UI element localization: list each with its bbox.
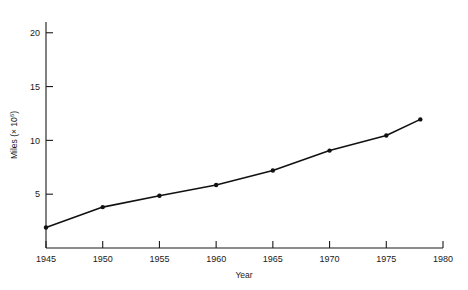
y-axis-title-base: Miles (× 10 [9, 117, 19, 159]
data-point [271, 168, 275, 172]
data-point [214, 183, 218, 187]
y-tick-label: 15 [30, 82, 40, 92]
y-tick-label: 10 [30, 136, 40, 146]
data-point [327, 148, 331, 152]
data-point [101, 205, 105, 209]
y-axis-title: Miles (× 106) [9, 111, 19, 159]
chart-canvas: 5101520 19451950195519601965197019751980… [0, 0, 468, 290]
x-tick-label: 1955 [149, 254, 169, 264]
data-point [157, 194, 161, 198]
x-tick-label: 1945 [36, 254, 56, 264]
x-tick-label: 1960 [206, 254, 226, 264]
data-point-markers [44, 117, 423, 230]
x-axis-title: Year [235, 270, 252, 280]
x-axis-ticks: 19451950195519601965197019751980 [36, 241, 453, 264]
y-tick-label: 20 [30, 28, 40, 38]
data-point [384, 133, 388, 137]
y-axis-title-close: ) [9, 111, 19, 114]
y-axis-ticks: 5101520 [30, 28, 53, 199]
data-point [418, 117, 422, 121]
x-tick-label: 1970 [320, 254, 340, 264]
line-chart: 5101520 19451950195519601965197019751980… [0, 0, 468, 290]
x-tick-label: 1950 [93, 254, 113, 264]
data-point [44, 225, 48, 229]
x-tick-label: 1980 [433, 254, 453, 264]
y-tick-label: 5 [35, 189, 40, 199]
x-tick-label: 1965 [263, 254, 283, 264]
x-tick-label: 1975 [376, 254, 396, 264]
data-series-line [46, 119, 420, 227]
